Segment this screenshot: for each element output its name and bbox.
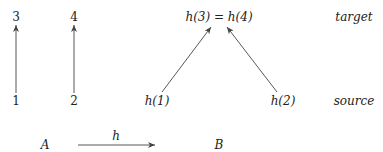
graph-b: h(3) = h(4) h(1) h(2)	[145, 10, 296, 108]
node-2: 2	[70, 94, 78, 108]
map-label-h: h	[112, 129, 120, 143]
node-h2: h(2)	[271, 94, 296, 108]
target-label: target	[335, 10, 372, 24]
node-4: 4	[70, 10, 78, 24]
domain-label-a: A	[40, 138, 50, 152]
edge-h2-to-top-arrow	[227, 27, 277, 92]
edge-h1-to-top-arrow	[162, 27, 211, 92]
source-label: source	[334, 94, 375, 108]
node-1: 1	[12, 94, 20, 108]
node-h1: h(1)	[145, 94, 170, 108]
diagram-canvas: 3 4 1 2 h(3) = h(4) h(1) h(2) target sou…	[0, 0, 383, 152]
codomain-label-b: B	[214, 138, 224, 152]
node-3: 3	[12, 10, 20, 24]
node-h3-eq-h4: h(3) = h(4)	[185, 10, 252, 24]
graph-a: 3 4 1 2	[12, 10, 78, 108]
mapping-row: A h B	[40, 129, 224, 152]
